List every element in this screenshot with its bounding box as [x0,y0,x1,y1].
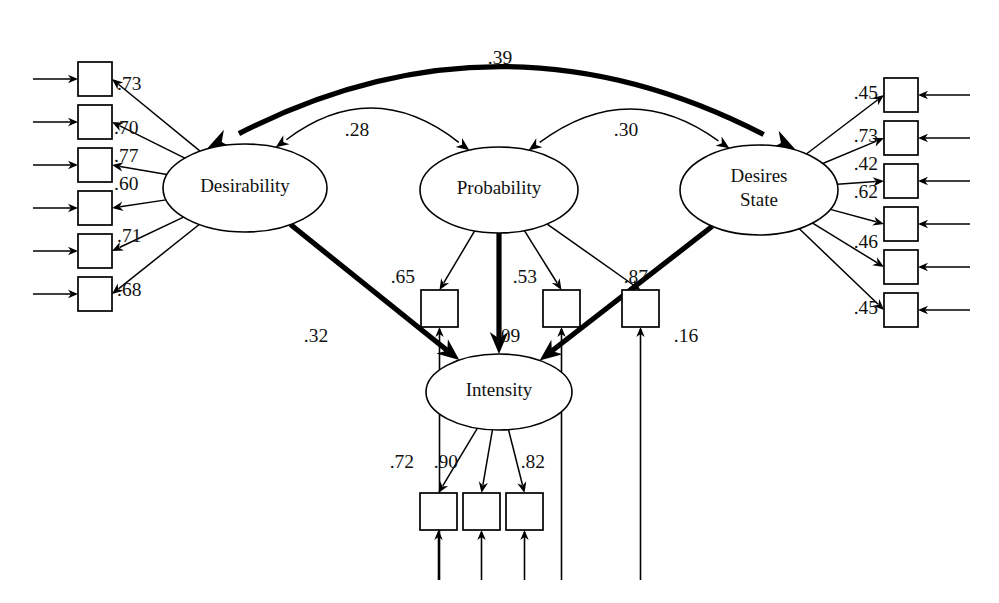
indicator-box-d4 [78,191,112,225]
loading-coefficient-p1: .65 [391,266,415,287]
indicator-box-d1 [78,62,112,96]
indicator-box-s1 [884,78,918,112]
loading-coefficient-d5: .71 [117,225,141,246]
covariance-arc-layer [207,67,797,151]
loading-arrowhead-i1 [439,481,449,493]
covariance-arrowhead-start-cov-probability-desires [529,138,543,150]
covariance-coefficient-cov-desirability-desires: .39 [488,47,512,68]
indicator-box-s3 [884,164,918,198]
latent-label-desirability: Desirability [200,175,290,196]
indicator-box-d5 [78,234,112,268]
loading-path-d4 [120,200,166,207]
covariance-coefficient-cov-probability-desires: .30 [614,119,638,140]
indicator-box-d2 [78,105,112,139]
latent-label-desires_state: Desires [731,165,788,186]
diagram-canvas: DesirabilityProbabilityDesiresStateInten… [0,0,999,603]
indicator-box-p1 [421,290,458,327]
indicator-box-i3 [506,493,543,530]
loading-path-p1 [444,231,475,283]
loading-coefficient-s5: .46 [854,231,879,252]
loading-arrowhead-s5 [872,257,884,267]
covariance-arc-cov-desirability-desires [239,67,764,135]
latent-label-desires_state: State [740,189,778,210]
covariance-arrowhead-end-cov-desirability-probability [456,138,470,150]
loading-coefficient-d3: .77 [114,145,139,166]
loading-coefficient-i3: .82 [521,451,545,472]
structural-coefficient-path-desires-intensity: .16 [674,325,699,346]
indicator-box-s2 [884,121,918,155]
indicator-box-s4 [884,207,918,241]
loading-coefficient-i2: .90 [434,451,458,472]
indicator-box-p3 [622,290,659,327]
loading-coefficient-s1: .45 [854,82,878,103]
loading-path-p3 [547,224,634,285]
loading-coefficient-p3: .87 [624,266,649,287]
indicator-box-i2 [463,493,500,530]
indicator-box-d6 [78,277,112,311]
loading-arrowhead-p1 [440,278,450,290]
loading-coefficient-d4: .60 [114,173,138,194]
covariance-arrowhead-end-cov-probability-desires [716,137,730,149]
loading-coefficient-d2: .70 [114,117,138,138]
covariance-arc-cov-desirability-probability [286,108,458,142]
indicator-box-i1 [420,493,457,530]
loading-arrowhead-p2 [552,278,562,290]
indicator-box-s6 [884,293,918,327]
loading-coefficient-i1: .72 [390,451,414,472]
loading-coefficient-s6: .45 [854,297,878,318]
indicator-box-s5 [884,250,918,284]
loading-coefficient-s3: .42 [854,153,878,174]
loading-path-i2 [483,430,493,485]
indicator-box-d3 [78,148,112,182]
loading-coefficient-d6: .68 [117,279,141,300]
loading-coefficient-p2: .53 [513,266,537,287]
loading-coefficient-s4: .62 [854,181,878,202]
structural-coefficient-path-desirability-intensity: .32 [304,325,328,346]
indicator-box-p2 [543,290,580,327]
latent-label-intensity: Intensity [466,379,533,400]
loading-coefficient-s2: .73 [854,125,878,146]
loading-path-s4 [830,209,876,221]
structural-coefficient-path-probability-intensity: .09 [496,325,520,346]
sem-path-diagram: DesirabilityProbabilityDesiresStateInten… [0,0,999,603]
loading-coefficient-d1: .73 [117,73,141,94]
covariance-coefficient-cov-desirability-probability: .28 [345,119,369,140]
covariance-arrowhead-start-cov-desirability-probability [276,135,290,147]
latent-label-probability: Probability [457,177,542,198]
